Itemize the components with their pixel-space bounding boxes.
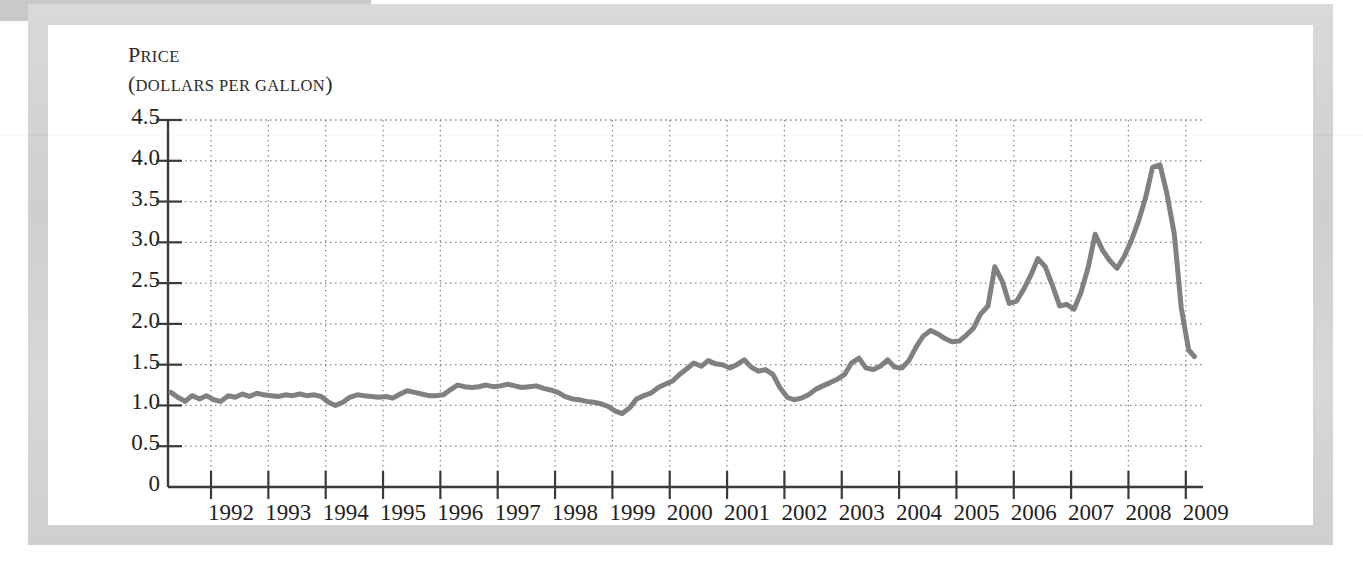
page-root: PRICE (DOLLARS PER GALLON) 00.51.01.52.0… xyxy=(0,0,1363,583)
gasoline-price-chart: PRICE (DOLLARS PER GALLON) 00.51.01.52.0… xyxy=(0,0,1363,583)
x-axis-tick-label: 2009 xyxy=(1171,500,1241,526)
plot-canvas xyxy=(0,0,1363,583)
x-axis-tick-marks xyxy=(211,471,1186,499)
vertical-gridlines xyxy=(211,120,1186,485)
